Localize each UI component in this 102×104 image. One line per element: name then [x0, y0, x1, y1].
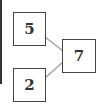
whole-value: 7	[74, 47, 84, 65]
part-value-bottom: 2	[24, 76, 34, 94]
connector-top	[45, 37, 63, 51]
part-box-bottom: 2	[13, 68, 46, 102]
whole-box: 7	[62, 39, 96, 73]
part-box-top: 5	[13, 12, 46, 46]
connector-bottom	[45, 62, 63, 78]
part-value-top: 5	[24, 20, 34, 38]
